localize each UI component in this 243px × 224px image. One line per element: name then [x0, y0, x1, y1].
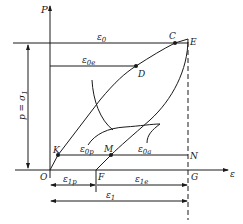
y-axis-label: P	[40, 4, 48, 15]
label-eps0: ε0	[97, 32, 107, 44]
label-eps0p: ε0p	[80, 144, 94, 156]
label-g: G	[191, 172, 198, 182]
stress-strain-diagram: P ε O K M N F G C E D ε0 ε0e ε0p ε0a ε1p…	[0, 0, 243, 224]
point-d-marker	[134, 64, 138, 68]
label-eps0a: ε0a	[138, 144, 151, 156]
label-e: E	[189, 37, 197, 47]
label-d: D	[137, 69, 145, 79]
label-eps1e: ε1e	[135, 174, 148, 186]
label-m: M	[103, 144, 114, 154]
x-axis-label: ε	[230, 169, 235, 179]
eps0a-leader	[147, 124, 160, 143]
label-eps1p: ε1p	[63, 174, 77, 186]
label-k: K	[52, 145, 61, 155]
label-eps1: ε1	[106, 190, 115, 202]
label-o: O	[40, 172, 48, 182]
loading-curve	[50, 39, 188, 170]
label-eps0e: ε0e	[82, 55, 95, 67]
point-c-marker	[173, 41, 177, 45]
diagram-canvas: P ε O K M N F G C E D ε0 ε0e ε0p ε0a ε1p…	[0, 0, 243, 224]
eps0e-leader	[92, 80, 113, 130]
label-n: N	[189, 151, 199, 161]
label-p-sigma1: p = σ1	[17, 90, 29, 120]
label-f: F	[97, 172, 105, 182]
label-c: C	[169, 31, 176, 41]
